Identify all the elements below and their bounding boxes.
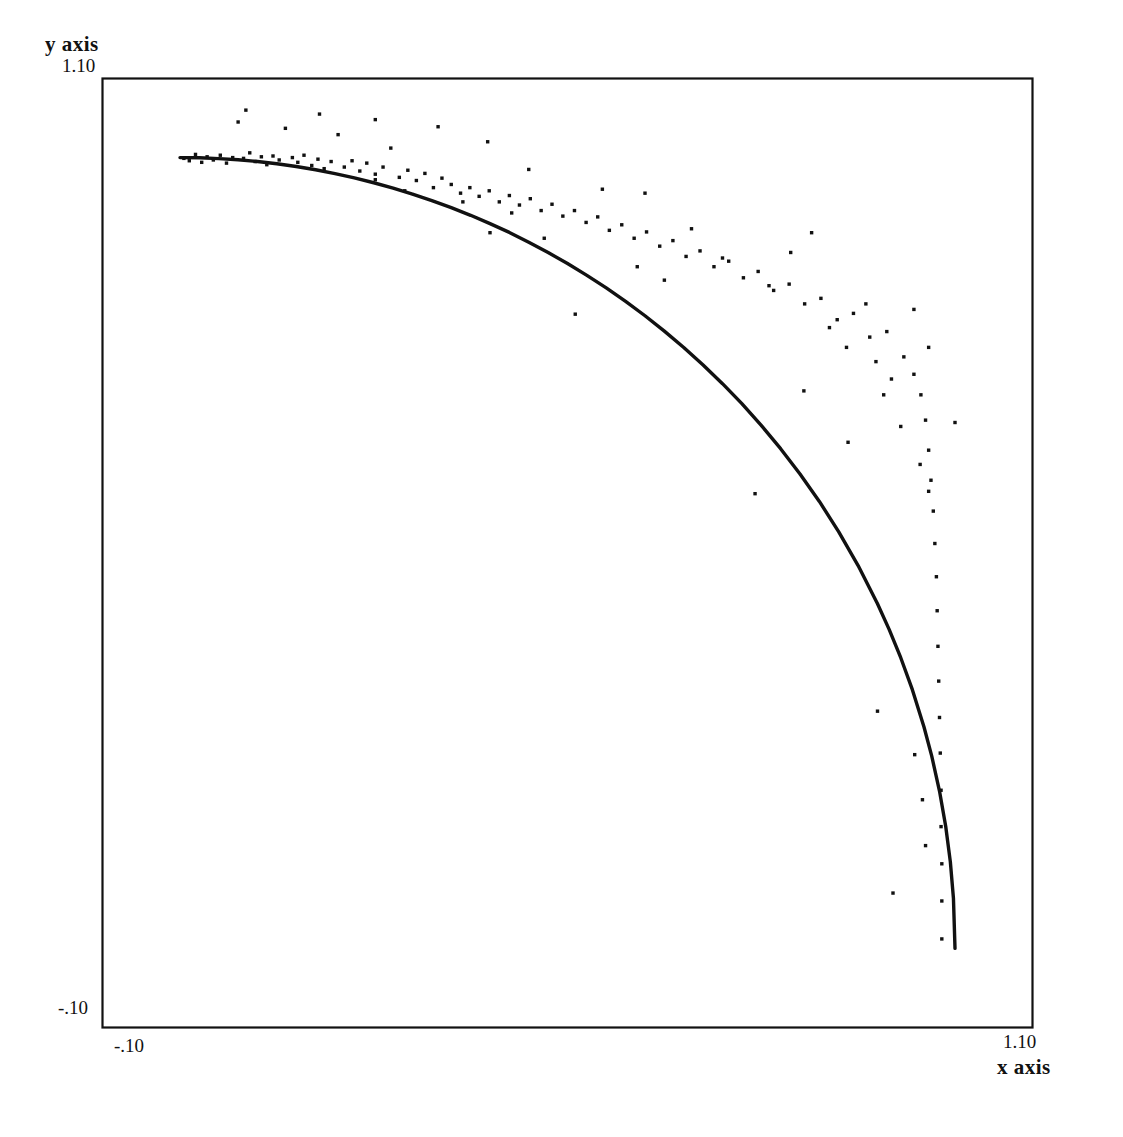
scatter-point	[632, 237, 635, 240]
scatter-point	[212, 158, 215, 161]
scatter-point	[924, 418, 927, 421]
scatter-point	[756, 270, 759, 273]
scatter-point	[845, 346, 848, 349]
scatter-point	[658, 244, 661, 247]
scatter-point	[527, 168, 530, 171]
scatter-point	[423, 172, 426, 175]
scatter-point	[248, 151, 251, 154]
scatter-point	[440, 176, 443, 179]
scatter-point	[322, 167, 325, 170]
scatter-point	[436, 125, 439, 128]
scatter-point	[543, 237, 546, 240]
scatter-point	[671, 239, 674, 242]
scatter-point	[927, 448, 930, 451]
scatter-point	[767, 284, 770, 287]
scatter-point	[381, 165, 384, 168]
scatter-point	[802, 389, 805, 392]
scatter-point	[913, 753, 916, 756]
scatter-point	[721, 256, 724, 259]
scatter-point	[608, 229, 611, 232]
scatter-point	[885, 330, 888, 333]
scatter-point	[432, 186, 435, 189]
scatter-point	[789, 251, 792, 254]
scatter-point	[415, 179, 418, 182]
plot-frame	[103, 79, 1033, 1028]
scatter-point	[876, 709, 879, 712]
scatter-point	[690, 227, 693, 230]
scatter-point	[727, 259, 730, 262]
scatter-point	[550, 203, 553, 206]
scatter-point	[573, 209, 576, 212]
plot-area	[0, 0, 1123, 1137]
scatter-point	[374, 172, 377, 175]
scatter-point	[403, 189, 406, 192]
scatter-point	[236, 120, 239, 123]
scatter-point	[846, 441, 849, 444]
scatter-point	[242, 157, 245, 160]
scatter-point	[940, 937, 943, 940]
scatter-point	[891, 891, 894, 894]
scatter-point	[684, 255, 687, 258]
scatter-point	[329, 160, 332, 163]
scatter-point	[200, 161, 203, 164]
scatter-point	[310, 164, 313, 167]
scatter-point	[712, 265, 715, 268]
scatter-point	[927, 490, 930, 493]
scatter-point	[924, 844, 927, 847]
scatter-point	[561, 214, 564, 217]
scatter-point	[596, 215, 599, 218]
scatter-point	[350, 159, 353, 162]
scatter-point	[936, 645, 939, 648]
scatter-point	[486, 140, 489, 143]
scatter-point	[459, 191, 462, 194]
scatter-point	[284, 127, 287, 130]
scatter-point	[265, 163, 268, 166]
scatter-point	[488, 189, 491, 192]
scatter-point	[398, 176, 401, 179]
scatter-point	[663, 278, 666, 281]
scatter-point	[488, 231, 491, 234]
scatter-point	[912, 308, 915, 311]
scatter-point	[868, 335, 871, 338]
figure-canvas: y axis 1.10 -.10 -.10 1.10 x axis	[0, 0, 1123, 1137]
x-axis-min-tick-label: -.10	[114, 1035, 144, 1057]
scatter-point	[253, 160, 256, 163]
scatter-point	[643, 191, 646, 194]
scatter-point	[890, 377, 893, 380]
scatter-point	[188, 159, 191, 162]
scatter-point	[244, 108, 247, 111]
scatter-point	[291, 156, 294, 159]
scatter-point	[939, 825, 942, 828]
scatter-point	[389, 146, 392, 149]
scatter-point	[852, 312, 855, 315]
scatter-point	[864, 302, 867, 305]
scatter-point	[365, 161, 368, 164]
scatter-point	[753, 492, 756, 495]
scatter-point	[574, 312, 577, 315]
scatter-point	[477, 195, 480, 198]
scatter-point	[584, 221, 587, 224]
scatter-point	[918, 463, 921, 466]
scatter-point	[296, 161, 299, 164]
scatter-point	[810, 231, 813, 234]
scatter-point	[772, 289, 775, 292]
x-axis-max-tick-label: 1.10	[1003, 1031, 1036, 1053]
scatter-point	[219, 154, 222, 157]
scatter-point	[182, 157, 185, 160]
scatter-point	[919, 393, 922, 396]
scatter-point	[937, 679, 940, 682]
scatter-point	[874, 360, 877, 363]
scatter-point	[194, 153, 197, 156]
scatter-point	[374, 118, 377, 121]
scatter-point	[645, 230, 648, 233]
scatter-point	[231, 156, 234, 159]
x-axis-title: x axis	[997, 1055, 1051, 1080]
scatter-point	[336, 133, 339, 136]
scatter-point	[539, 209, 542, 212]
scatter-point	[510, 211, 513, 214]
scatter-point	[461, 200, 464, 203]
scatter-point	[358, 169, 361, 172]
scatter-point	[278, 158, 281, 161]
y-axis-max-tick-label: 1.10	[62, 55, 95, 77]
scatter-point	[935, 575, 938, 578]
